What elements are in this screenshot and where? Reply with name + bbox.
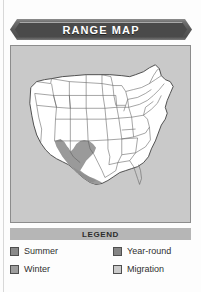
legend-item-summer[interactable]: Summer bbox=[10, 243, 88, 259]
legend-heading-label: LEGEND bbox=[82, 230, 119, 239]
legend-heading-bar: LEGEND bbox=[10, 228, 191, 240]
legend-body: Summer Winter Year-round Migration bbox=[10, 243, 191, 279]
legend-column-right: Year-round Migration bbox=[113, 243, 191, 279]
legend-item-winter[interactable]: Winter bbox=[10, 261, 88, 277]
us-range-map bbox=[11, 46, 190, 222]
left-divider bbox=[3, 0, 4, 292]
legend-label-summer: Summer bbox=[24, 247, 58, 256]
map-panel[interactable] bbox=[10, 45, 191, 223]
title-banner: RANGE MAP bbox=[10, 19, 192, 40]
legend-item-year-round[interactable]: Year-round bbox=[113, 243, 191, 259]
legend-label-year-round: Year-round bbox=[127, 247, 171, 256]
range-map-card: RANGE MAP bbox=[0, 0, 201, 292]
page-title: RANGE MAP bbox=[10, 19, 192, 40]
legend-swatch-winter bbox=[10, 265, 19, 274]
legend-swatch-migration bbox=[113, 265, 122, 274]
legend-swatch-year-round bbox=[113, 247, 122, 256]
legend-label-winter: Winter bbox=[24, 265, 50, 274]
legend-label-migration: Migration bbox=[127, 265, 164, 274]
legend-column-left: Summer Winter bbox=[10, 243, 88, 279]
legend-item-migration[interactable]: Migration bbox=[113, 261, 191, 277]
legend-swatch-summer bbox=[10, 247, 19, 256]
